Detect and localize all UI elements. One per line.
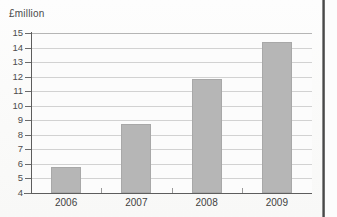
x-axis-tick-label: 2008 <box>185 197 229 208</box>
bar <box>262 42 292 193</box>
y-axis-tick <box>25 120 31 121</box>
chart-page: £million 456789101112131415 200620072008… <box>0 0 337 217</box>
y-axis-tick <box>25 48 31 49</box>
y-axis-tick-label: 12 <box>1 72 23 82</box>
y-axis-tick-label: 10 <box>1 101 23 111</box>
y-axis-tick-label: 5 <box>1 173 23 183</box>
bar <box>121 124 151 193</box>
x-axis-line <box>24 193 312 194</box>
y-axis-tick-label: 4 <box>1 188 23 198</box>
y-axis-tick <box>25 91 31 92</box>
y-axis-tick <box>25 135 31 136</box>
y-axis-tick-label: 13 <box>1 57 23 67</box>
plot-area <box>31 33 312 193</box>
scan-page-margin <box>325 0 337 217</box>
y-axis-tick <box>25 77 31 78</box>
y-axis-tick <box>25 149 31 150</box>
x-axis-tick-label: 2009 <box>255 197 299 208</box>
y-axis-tick <box>25 193 31 194</box>
y-axis-tick-label: 15 <box>1 28 23 38</box>
y-axis-tick-label: 8 <box>1 130 23 140</box>
y-axis-line <box>31 32 32 194</box>
y-axis-tick <box>25 33 31 34</box>
x-axis-tick-label: 2007 <box>114 197 158 208</box>
y-axis-tick-label: 7 <box>1 144 23 154</box>
x-axis-tick <box>242 188 243 193</box>
y-axis-tick <box>25 106 31 107</box>
y-axis-tick-label: 9 <box>1 115 23 125</box>
x-axis-tick <box>101 188 102 193</box>
gridline <box>31 33 312 34</box>
y-axis-tick-label: 6 <box>1 159 23 169</box>
y-axis-tick <box>25 62 31 63</box>
x-axis-tick-label: 2006 <box>44 197 88 208</box>
y-axis-tick-label: 14 <box>1 43 23 53</box>
bar <box>192 79 222 193</box>
y-axis-tick <box>25 164 31 165</box>
y-axis-labels: 456789101112131415 <box>0 0 23 217</box>
y-axis-tick-label: 11 <box>1 86 23 96</box>
y-axis-tick <box>25 178 31 179</box>
bar <box>51 167 81 193</box>
x-axis-tick <box>172 188 173 193</box>
